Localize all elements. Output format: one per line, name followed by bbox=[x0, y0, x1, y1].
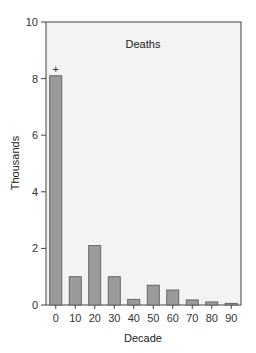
y-tick-label: 6 bbox=[32, 129, 38, 141]
y-tick-label: 10 bbox=[26, 16, 38, 28]
bar-70 bbox=[186, 300, 198, 305]
x-tick-label: 30 bbox=[108, 312, 120, 324]
y-tick-label: 4 bbox=[32, 186, 38, 198]
x-tick-label: 20 bbox=[89, 312, 101, 324]
bar-30 bbox=[108, 277, 120, 305]
y-tick-label: 0 bbox=[32, 299, 38, 311]
bar-60 bbox=[167, 290, 179, 305]
chart-title: Deaths bbox=[126, 38, 161, 50]
bar-annotation: + bbox=[53, 63, 59, 75]
x-tick-label: 80 bbox=[206, 312, 218, 324]
x-axis-label: Decade bbox=[124, 332, 162, 344]
x-tick-label: 10 bbox=[69, 312, 81, 324]
x-tick-label: 60 bbox=[167, 312, 179, 324]
x-tick-label: 50 bbox=[147, 312, 159, 324]
bar-0 bbox=[50, 76, 62, 305]
bar-90 bbox=[225, 303, 237, 305]
y-tick-label: 8 bbox=[32, 73, 38, 85]
plot-area bbox=[46, 22, 241, 305]
x-tick-label: 0 bbox=[53, 312, 59, 324]
bar-50 bbox=[147, 285, 159, 305]
x-axis: 0102030405060708090 bbox=[53, 305, 238, 324]
annotations: + bbox=[53, 63, 59, 75]
x-tick-label: 40 bbox=[128, 312, 140, 324]
y-tick-label: 2 bbox=[32, 242, 38, 254]
x-tick-label: 90 bbox=[225, 312, 237, 324]
bar-20 bbox=[89, 246, 101, 305]
bar-40 bbox=[128, 299, 140, 305]
bar-10 bbox=[69, 277, 81, 305]
y-axis-label: Thousands bbox=[9, 135, 21, 190]
y-axis: 0246810 bbox=[26, 16, 46, 311]
x-tick-label: 70 bbox=[186, 312, 198, 324]
bar-80 bbox=[206, 302, 218, 305]
bar-chart: 0246810 0102030405060708090 + Deaths Dec… bbox=[0, 0, 256, 353]
